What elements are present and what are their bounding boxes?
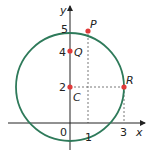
y-axis-label: y: [59, 4, 67, 17]
point-label-c: C: [73, 91, 81, 104]
guide-lines: [70, 30, 124, 123]
origin-label: 0: [60, 126, 67, 139]
point-label-q: Q: [74, 46, 83, 59]
point-c: [67, 84, 72, 89]
y-tick-4: 4: [59, 46, 66, 59]
point-label-p: P: [90, 18, 97, 31]
y-tick-2: 2: [59, 81, 66, 94]
coordinate-diagram: y x 0 1 3 2 4 5 C Q P R: [0, 0, 150, 156]
y-tick-5: 5: [61, 23, 68, 36]
point-label-r: R: [126, 74, 134, 87]
points: [67, 28, 126, 89]
x-tick-1: 1: [85, 131, 92, 144]
x-tick-3: 3: [120, 126, 127, 139]
x-axis-label: x: [135, 126, 143, 139]
point-q: [67, 48, 72, 53]
